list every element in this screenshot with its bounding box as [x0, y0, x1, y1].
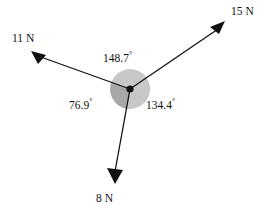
force-label-15n: 15 N — [231, 6, 254, 18]
force-label-8n: 8 N — [96, 193, 113, 205]
angle-label-76-9: 76.9° — [69, 98, 92, 111]
degree-symbol-148-7: ° — [129, 50, 132, 59]
angle-label-148-7: 148.7° — [103, 51, 132, 64]
degree-symbol-134-4: ° — [172, 97, 175, 106]
force-label-11n: 11 N — [12, 33, 34, 45]
origin-point — [126, 85, 133, 92]
angle-label-134-4: 134.4° — [146, 98, 175, 111]
angle-value-76-9: 76.9 — [69, 99, 89, 111]
force-vector-diagram — [0, 0, 274, 213]
angle-value-134-4: 134.4 — [146, 99, 172, 111]
degree-symbol-76-9: ° — [89, 97, 92, 106]
angle-value-148-7: 148.7 — [103, 52, 129, 64]
